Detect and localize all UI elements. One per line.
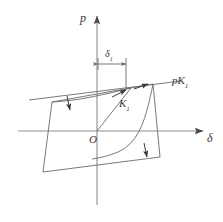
axis-group	[18, 16, 203, 205]
k1-label: K1	[119, 98, 130, 112]
p-axis-label: p	[80, 12, 86, 24]
inner-curve-lower	[118, 84, 153, 152]
hysteresis-loop-figure: p δ O δ1 K1 pK1	[0, 0, 223, 222]
direction-arrow-group	[67, 84, 148, 157]
pk1-subscript: 1	[185, 82, 188, 89]
arrow-unloading-left	[67, 96, 70, 110]
pk1-label: pK1	[172, 75, 188, 89]
pk1-upper-line	[29, 81, 181, 100]
loop-right-branch	[153, 84, 160, 157]
delta1-label: δ1	[105, 49, 113, 61]
pk1-base: pK	[172, 74, 185, 86]
delta-axis-label: δ	[207, 132, 213, 144]
loop-left-branch	[43, 102, 52, 172]
k1-subscript: 1	[126, 105, 129, 112]
delta1-base: δ	[105, 48, 110, 59]
arrow-unloading-right	[144, 143, 147, 157]
hysteresis-loop-outline	[43, 84, 160, 172]
delta1-subscript: 1	[110, 55, 113, 62]
inner-curve-lower-tail	[92, 152, 118, 159]
loop-top-line	[52, 84, 153, 102]
pk1-backbone-group	[29, 81, 181, 100]
delta1-dimension-group	[98, 58, 126, 88]
origin-label: O	[89, 134, 97, 145]
diagram-canvas	[0, 0, 223, 222]
loop-bottom-line	[43, 157, 160, 172]
